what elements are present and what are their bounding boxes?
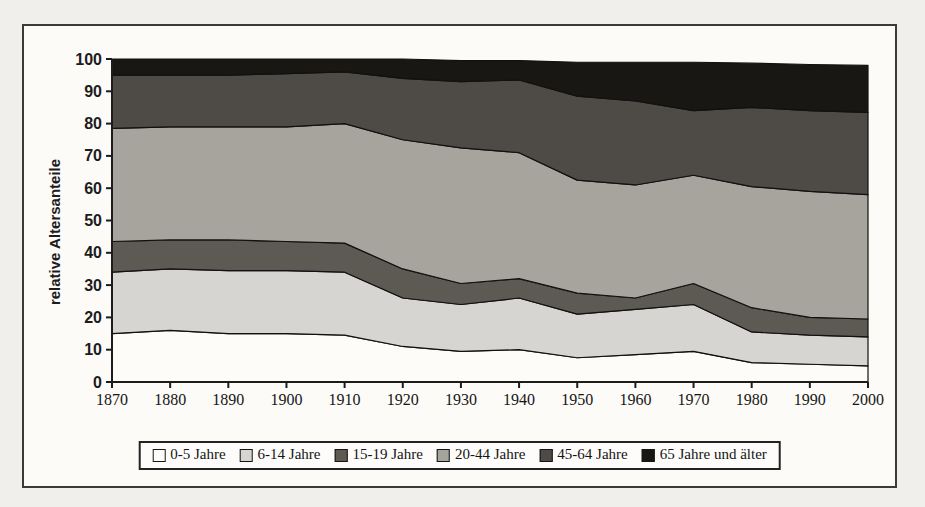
legend-label: 6-14 Jahre	[258, 447, 321, 462]
x-tick-label-1910: 1910	[329, 391, 361, 408]
legend-label: 65 Jahre und älter	[660, 447, 767, 462]
legend-label: 45-64 Jahre	[557, 447, 627, 462]
y-tick-label-90: 90	[84, 83, 102, 100]
legend-item-0-5-jahre: 0-5 Jahre	[152, 448, 225, 463]
legend-item-65-jahre-und-älter: 65 Jahre und älter	[642, 448, 767, 463]
y-tick-label-30: 30	[84, 277, 102, 294]
x-tick-label-1890: 1890	[212, 391, 244, 408]
y-tick-label-60: 60	[84, 180, 102, 197]
x-axis-ticks: 1870188018901900191019201930194019501960…	[96, 382, 884, 408]
y-tick-label-40: 40	[84, 244, 102, 261]
legend-item-15-19-jahre: 15-19 Jahre	[335, 448, 423, 463]
x-tick-label-1990: 1990	[794, 391, 826, 408]
y-tick-label-0: 0	[93, 374, 102, 391]
x-tick-label-1900: 1900	[270, 391, 302, 408]
area-bands	[112, 59, 868, 382]
y-tick-label-70: 70	[84, 147, 102, 164]
x-tick-label-1880: 1880	[154, 391, 186, 408]
x-tick-label-2000: 2000	[852, 391, 884, 408]
x-tick-label-1920: 1920	[387, 391, 419, 408]
scanned-page: relative Altersanteile 01020304050607080…	[0, 0, 925, 507]
stacked-area-chart: relative Altersanteile 01020304050607080…	[24, 26, 895, 486]
chart-figure-frame: relative Altersanteile 01020304050607080…	[22, 24, 897, 488]
legend-label: 15-19 Jahre	[353, 447, 423, 462]
legend-swatch-icon	[335, 449, 348, 462]
legend-swatch-icon	[539, 449, 552, 462]
legend-item-45-64-jahre: 45-64 Jahre	[539, 448, 627, 463]
x-tick-label-1980: 1980	[736, 391, 768, 408]
x-tick-label-1960: 1960	[619, 391, 651, 408]
legend-swatch-icon	[437, 449, 450, 462]
x-tick-label-1870: 1870	[96, 391, 128, 408]
y-tick-label-20: 20	[84, 309, 102, 326]
x-tick-label-1970: 1970	[678, 391, 710, 408]
legend-swatch-icon	[642, 449, 655, 462]
legend-label: 20-44 Jahre	[455, 447, 525, 462]
legend: 0-5 Jahre6-14 Jahre15-19 Jahre20-44 Jahr…	[138, 441, 781, 470]
legend-item-6-14-jahre: 6-14 Jahre	[240, 448, 321, 463]
y-axis-title: relative Altersanteile	[46, 159, 63, 305]
x-tick-label-1930: 1930	[445, 391, 477, 408]
x-tick-label-1940: 1940	[503, 391, 535, 408]
legend-swatch-icon	[240, 449, 253, 462]
y-tick-label-80: 80	[84, 115, 102, 132]
y-tick-label-10: 10	[84, 341, 102, 358]
y-tick-label-100: 100	[75, 51, 102, 68]
legend-label: 0-5 Jahre	[170, 447, 225, 462]
y-tick-label-50: 50	[84, 212, 102, 229]
legend-swatch-icon	[152, 449, 165, 462]
x-tick-label-1950: 1950	[561, 391, 593, 408]
y-axis-ticks: 0102030405060708090100	[75, 51, 112, 391]
legend-item-20-44-jahre: 20-44 Jahre	[437, 448, 525, 463]
